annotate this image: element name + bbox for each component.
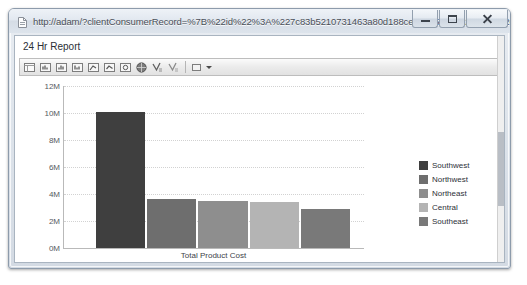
y-axis-tick-label: 12M (44, 82, 60, 91)
first-page-icon[interactable] (38, 60, 53, 75)
toolbar-separator (185, 61, 186, 73)
chart-legend: SouthwestNorthwestNortheastCentralSouthe… (419, 158, 499, 228)
browser-window: http://adam/?clientConsumerRecord=%7B%22… (8, 8, 511, 269)
x-axis-label: Total Product Cost (63, 251, 364, 260)
legend-label: Southwest (432, 161, 469, 170)
y-axis-tick-label: 2M (49, 217, 60, 226)
bar-chart: 0M2M4M6M8M10M12M Total Product Cost Sout… (19, 80, 498, 260)
legend-swatch (419, 161, 428, 170)
last-page-icon[interactable] (86, 60, 101, 75)
scrollbar-thumb[interactable] (498, 132, 504, 206)
window-controls (411, 10, 508, 31)
y-axis-tick-label: 0M (49, 244, 60, 253)
gridline (64, 248, 364, 249)
chart-bar[interactable] (96, 112, 145, 248)
vertical-scrollbar[interactable] (497, 36, 504, 262)
window-bottom-edge (9, 263, 510, 268)
y-axis-tick-label: 8M (49, 136, 60, 145)
legend-label: Northwest (432, 175, 468, 184)
page-content-area: 24 Hr Report (14, 35, 505, 263)
document-map-icon[interactable] (22, 60, 37, 75)
find-icon[interactable] (150, 60, 165, 75)
legend-swatch (419, 175, 428, 184)
y-axis-tick-label: 4M (49, 190, 60, 199)
chart-bar[interactable] (198, 201, 247, 248)
maximize-icon (448, 15, 457, 23)
legend-label: Northeast (432, 189, 467, 198)
close-icon (482, 13, 493, 24)
legend-label: Southeast (432, 217, 468, 226)
previous-page-icon[interactable] (54, 60, 69, 75)
chart-plot-area: 0M2M4M6M8M10M12M (63, 86, 364, 249)
legend-swatch (419, 217, 428, 226)
minimize-icon (421, 20, 430, 22)
legend-item: Central (419, 200, 499, 214)
page-icon (16, 15, 29, 28)
refresh-icon[interactable] (102, 60, 117, 75)
chart-bar[interactable] (147, 199, 196, 248)
minimize-button[interactable] (412, 10, 438, 28)
report-title: 24 Hr Report (23, 41, 80, 52)
chart-bar[interactable] (301, 209, 350, 248)
chevron-down-icon[interactable] (206, 66, 212, 69)
zoom-select-icon[interactable] (189, 60, 204, 75)
export-icon[interactable] (134, 60, 149, 75)
legend-item: Southeast (419, 214, 499, 228)
print-icon[interactable] (118, 60, 133, 75)
maximize-button[interactable] (439, 10, 465, 28)
legend-item: Northeast (419, 186, 499, 200)
legend-item: Southwest (419, 158, 499, 172)
gridline (64, 86, 364, 88)
close-button[interactable] (466, 10, 508, 28)
chart-bar[interactable] (250, 202, 299, 248)
window-titlebar[interactable]: http://adam/?clientConsumerRecord=%7B%22… (9, 9, 510, 33)
y-axis-tick-label: 6M (49, 163, 60, 172)
legend-item: Northwest (419, 172, 499, 186)
find-next-icon[interactable] (166, 60, 181, 75)
legend-label: Central (432, 203, 458, 212)
legend-swatch (419, 189, 428, 198)
report-toolbar[interactable] (19, 58, 498, 76)
legend-swatch (419, 203, 428, 212)
next-page-icon[interactable] (70, 60, 85, 75)
desktop-background: http://adam/?clientConsumerRecord=%7B%22… (0, 0, 527, 285)
y-axis-tick-label: 10M (44, 109, 60, 118)
